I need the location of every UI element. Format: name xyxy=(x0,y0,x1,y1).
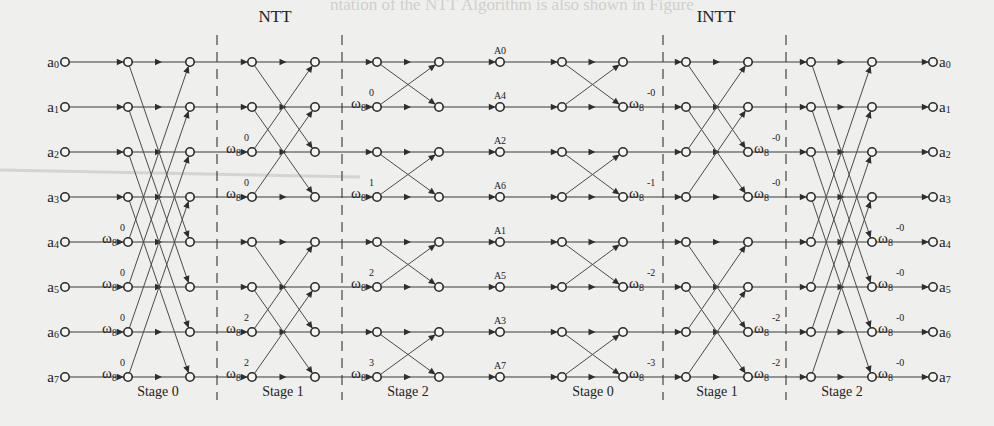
arrowhead-icon xyxy=(241,284,248,290)
arrowhead-icon xyxy=(428,334,436,341)
twiddle-factor: ω8-0 xyxy=(878,267,904,293)
arrowhead-icon xyxy=(589,59,596,65)
butterfly-node xyxy=(186,328,194,336)
arrowhead-icon xyxy=(589,284,596,290)
butterfly-node xyxy=(682,373,690,381)
arrowhead-icon xyxy=(306,290,313,298)
arrowhead-icon xyxy=(800,239,807,245)
svg-text:ω8: ω8 xyxy=(629,275,644,293)
arrowhead-icon xyxy=(551,284,558,290)
arrowhead-icon xyxy=(489,194,496,200)
butterfly-node xyxy=(868,103,876,111)
arrowhead-icon xyxy=(155,374,162,380)
arrowhead-icon xyxy=(713,239,720,245)
intermediate-node xyxy=(496,193,504,201)
arrowhead-icon xyxy=(675,59,682,65)
butterfly-node xyxy=(744,193,752,201)
butterfly-node xyxy=(124,148,132,156)
arrowhead-icon xyxy=(366,194,373,200)
butterfly-node xyxy=(311,283,319,291)
output-label: a1 xyxy=(939,99,951,115)
input-node xyxy=(61,283,69,291)
butterfly-node xyxy=(435,148,443,156)
arrowhead-icon xyxy=(306,141,313,149)
butterfly-node xyxy=(807,148,815,156)
svg-text:2: 2 xyxy=(369,267,374,278)
svg-text:ω8: ω8 xyxy=(351,365,366,383)
arrowhead-icon xyxy=(800,104,807,110)
svg-text:ω8: ω8 xyxy=(878,365,893,383)
butterfly-node xyxy=(744,238,752,246)
arrowhead-icon xyxy=(800,194,807,200)
butterfly-node xyxy=(186,193,194,201)
arrowhead-icon xyxy=(865,275,871,283)
arrowhead-icon xyxy=(739,245,746,253)
svg-text:ω8: ω8 xyxy=(102,275,117,293)
svg-text:2: 2 xyxy=(244,312,249,323)
butterfly-node xyxy=(868,193,876,201)
input-node xyxy=(61,148,69,156)
butterfly-node xyxy=(682,58,690,66)
twiddle-factor: ω8-0 xyxy=(878,357,904,383)
arrowhead-icon xyxy=(155,104,162,110)
output-node xyxy=(929,328,937,336)
arrowhead-icon xyxy=(404,194,411,200)
butterfly-node xyxy=(744,373,752,381)
arrowhead-icon xyxy=(155,329,162,335)
arrowhead-icon xyxy=(589,329,596,335)
arrowhead-icon xyxy=(306,110,313,118)
butterfly-node xyxy=(435,328,443,336)
arrowhead-icon xyxy=(428,188,436,195)
arrowhead-icon xyxy=(739,110,746,118)
twiddle-factor: ω8-0 xyxy=(754,177,780,203)
butterfly-node xyxy=(558,148,566,156)
arrowhead-icon xyxy=(366,329,373,335)
butterfly-node xyxy=(373,238,381,246)
svg-text:ω8: ω8 xyxy=(351,275,366,293)
butterfly-node xyxy=(248,193,256,201)
arrowhead-icon xyxy=(183,320,189,328)
twiddle-factor: ω82 xyxy=(226,357,249,383)
arrowhead-icon xyxy=(489,329,496,335)
intermediate-node xyxy=(496,373,504,381)
svg-text:ω8: ω8 xyxy=(226,320,241,338)
arrowhead-icon xyxy=(612,154,620,161)
arrowhead-icon xyxy=(404,59,411,65)
arrowhead-icon xyxy=(551,239,558,245)
butterfly-node xyxy=(558,58,566,66)
intermediate-label: A3 xyxy=(494,315,506,326)
svg-text:-1: -1 xyxy=(647,177,655,188)
butterfly-diagram: ntation of the NTT Algorithm is also sho… xyxy=(0,0,994,426)
butterfly-node xyxy=(868,373,876,381)
svg-text:ω8: ω8 xyxy=(629,185,644,203)
arrowhead-icon xyxy=(551,149,558,155)
input-label: a4 xyxy=(47,234,59,250)
butterfly-node xyxy=(744,148,752,156)
butterfly-node xyxy=(744,283,752,291)
arrowhead-icon xyxy=(241,59,248,65)
twiddle-factor: ω80 xyxy=(102,222,125,248)
twiddle-factor: ω8-1 xyxy=(629,177,655,203)
arrowhead-icon xyxy=(865,66,871,74)
stage-label: Stage 0 xyxy=(572,384,614,399)
twiddle-factor: ω8-2 xyxy=(629,267,655,293)
arrowhead-icon xyxy=(428,244,436,251)
butterfly-node xyxy=(558,328,566,336)
input-node xyxy=(61,238,69,246)
arrowhead-icon xyxy=(241,239,248,245)
arrowhead-icon xyxy=(117,104,124,110)
twiddle-factor: ω82 xyxy=(351,267,374,293)
arrowhead-icon xyxy=(589,374,596,380)
arrowhead-icon xyxy=(922,329,929,335)
arrowhead-icon xyxy=(489,59,496,65)
svg-text:ω8: ω8 xyxy=(754,320,769,338)
butterfly-node xyxy=(248,283,256,291)
arrowhead-icon xyxy=(612,368,620,375)
twiddle-factor: ω80 xyxy=(351,87,374,113)
intermediate-label: A6 xyxy=(494,180,506,191)
arrowhead-icon xyxy=(117,239,124,245)
arrowhead-icon xyxy=(183,275,189,283)
twiddle-factor: ω8-3 xyxy=(629,357,655,383)
butterfly-node xyxy=(682,103,690,111)
arrowhead-icon xyxy=(713,374,720,380)
